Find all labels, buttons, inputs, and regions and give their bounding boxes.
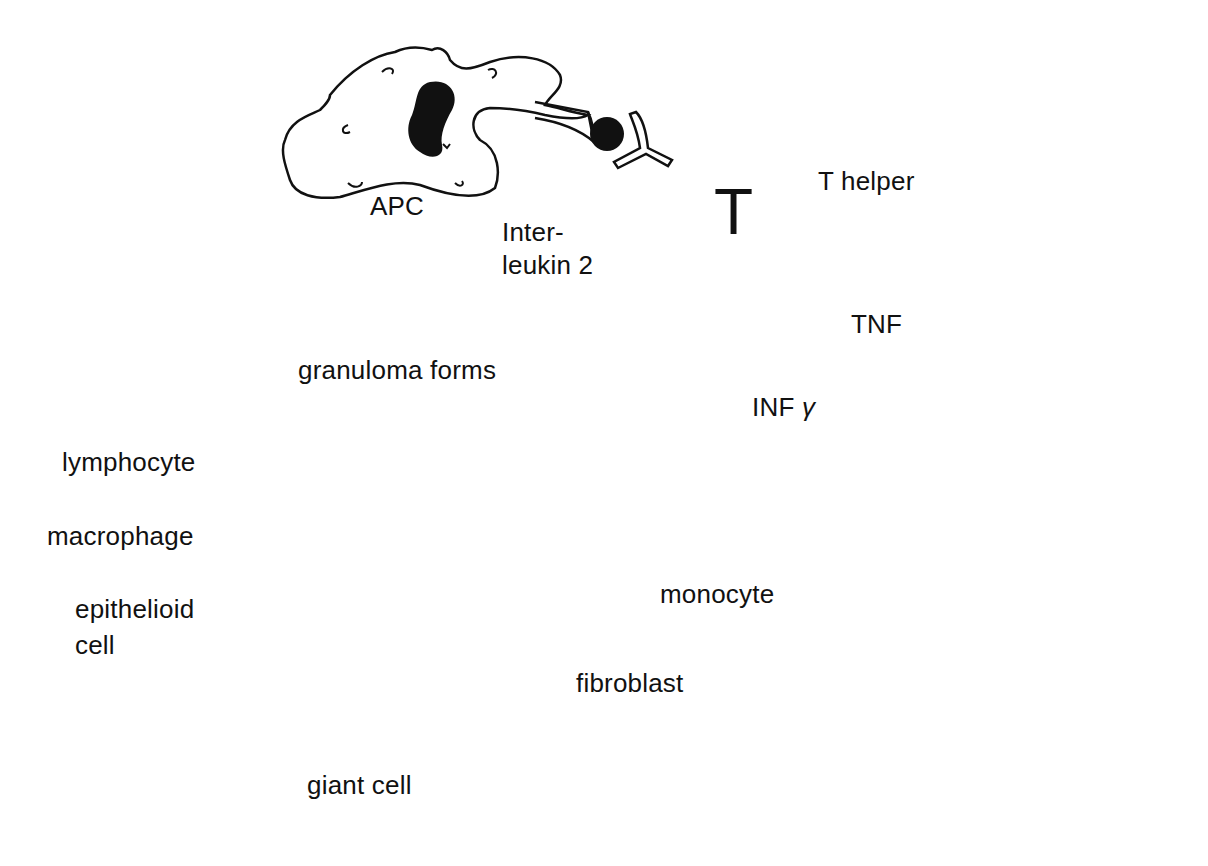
tnf-label: TNF	[851, 311, 902, 338]
epithelioid-label-line2: cell	[75, 632, 115, 659]
interleukin-label-line1: Inter-	[502, 219, 564, 246]
apc-cell-icon	[283, 48, 672, 198]
apc-label: APC	[370, 193, 424, 220]
inf-gamma-label: INF γ	[752, 394, 815, 421]
macrophage-label: macrophage	[47, 523, 194, 550]
gamma-symbol: γ	[802, 392, 815, 422]
inf-label: INF	[752, 392, 794, 422]
t-helper-core-letter: T	[714, 180, 753, 244]
lymphocyte-label: lymphocyte	[62, 449, 196, 476]
granuloma-forms-title: granuloma forms	[298, 357, 496, 384]
granuloma-formation-diagram: T APC T helper Inter- leukin 2 TNF INF γ…	[0, 0, 1208, 866]
t-helper-label: T helper	[818, 168, 915, 195]
interleukin-label-line2: leukin 2	[502, 252, 593, 279]
giant-cell-label: giant cell	[307, 772, 412, 799]
epithelioid-label-line1: epithelioid	[75, 596, 194, 623]
monocyte-label: monocyte	[660, 581, 774, 608]
fibroblast-label: fibroblast	[576, 670, 684, 697]
